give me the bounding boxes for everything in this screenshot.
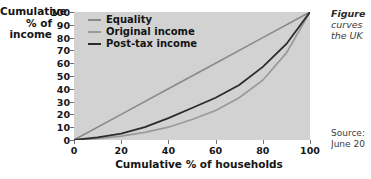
x-tick-mark-0 xyxy=(74,140,75,144)
figure-caption-line-2: curves xyxy=(331,19,371,30)
x-tick-mark-20 xyxy=(121,140,122,144)
x-tick-mark-80 xyxy=(263,140,264,144)
figure-caption-line-1: Figure xyxy=(331,8,371,19)
source-note: Source: June 20 xyxy=(331,128,371,149)
y-tick-label-30: 30 xyxy=(40,97,70,108)
legend-label-original-income: Original income xyxy=(106,26,195,37)
lorenz-curve-figure: Cumulative % of income 100 90 80 70 60 5… xyxy=(0,0,371,179)
y-tick-label-50: 50 xyxy=(40,71,70,82)
x-tick-label-40: 40 xyxy=(153,145,183,156)
x-tick-mark-100 xyxy=(310,140,311,144)
y-tick-label-60: 60 xyxy=(40,58,70,69)
y-tick-label-40: 40 xyxy=(40,84,70,95)
x-tick-mark-60 xyxy=(216,140,217,144)
legend-item-original-income: Original income xyxy=(88,26,197,37)
x-tick-label-100: 100 xyxy=(295,145,325,156)
y-tick-label-80: 80 xyxy=(40,33,70,44)
legend-swatch-equality xyxy=(88,19,101,21)
legend-item-equality: Equality xyxy=(88,14,197,25)
legend-label-equality: Equality xyxy=(106,14,152,25)
legend-item-post-tax-income: Post-tax income xyxy=(88,38,197,49)
legend-swatch-original-income xyxy=(88,31,101,33)
y-tick-label-20: 20 xyxy=(40,109,70,120)
source-note-line-1: Source: xyxy=(331,128,371,139)
y-tick-label-100: 100 xyxy=(40,7,70,18)
legend-label-post-tax-income: Post-tax income xyxy=(106,38,197,49)
x-tick-label-0: 0 xyxy=(59,145,89,156)
y-tick-label-90: 90 xyxy=(40,20,70,31)
source-note-line-2: June 20 xyxy=(331,139,371,150)
chart-legend: Equality Original income Post-tax income xyxy=(88,14,197,50)
figure-caption-line-3: the UK xyxy=(331,30,371,41)
x-tick-mark-40 xyxy=(168,140,169,144)
figure-caption: Figure curves the UK xyxy=(331,8,371,41)
x-tick-label-20: 20 xyxy=(106,145,136,156)
y-tick-label-10: 10 xyxy=(40,122,70,133)
x-tick-label-80: 80 xyxy=(248,145,278,156)
x-tick-label-60: 60 xyxy=(201,145,231,156)
x-axis-title: Cumulative % of households xyxy=(74,158,324,170)
y-tick-label-70: 70 xyxy=(40,45,70,56)
legend-swatch-post-tax-income xyxy=(88,43,101,45)
